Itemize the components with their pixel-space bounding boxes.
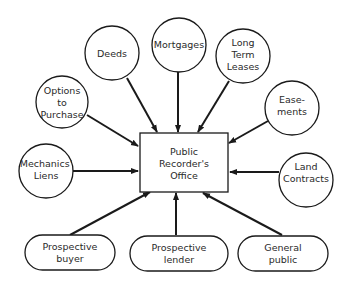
center-line-2: Recorder's	[159, 158, 209, 169]
easements-label-2: ments	[277, 106, 307, 117]
lender-label-1: Prospective	[152, 242, 207, 253]
public-label-2: public	[269, 254, 298, 265]
arrow-general-public	[203, 193, 282, 235]
buyer-label-2: buyer	[56, 253, 84, 264]
mechanics-liens-label-2: Liens	[34, 170, 59, 181]
arrow-deeds	[127, 78, 157, 132]
buyer-label-1: Prospective	[43, 241, 98, 252]
long-term-leases-label-2: Term	[230, 49, 254, 60]
options-label-3: Purchase	[40, 109, 83, 120]
deeds-label: Deeds	[97, 48, 127, 59]
public-label-1: General	[264, 242, 301, 253]
mechanics-liens-label-1: Mechanics'	[20, 158, 73, 169]
mortgages-label: Mortgages	[154, 39, 204, 50]
public-recorders-office-box: Public Recorder's Office	[140, 133, 228, 192]
options-label-2: to	[57, 97, 67, 108]
arrow-options	[87, 115, 138, 146]
land-contracts-label-2: Contracts	[283, 173, 329, 184]
long-term-leases-label-3: Leases	[227, 61, 260, 72]
center-line-1: Public	[170, 146, 198, 157]
arrow-prospective-buyer	[70, 192, 150, 235]
arrow-long-term-leases	[198, 81, 229, 132]
options-label-1: Options	[44, 85, 81, 96]
lender-label-2: lender	[164, 254, 194, 265]
arrow-easements	[229, 121, 268, 143]
easements-label-1: Ease-	[279, 94, 305, 105]
long-term-leases-label-1: Long	[232, 37, 255, 48]
recorder-diagram: Public Recorder's Office Deeds Mortgages…	[0, 0, 353, 285]
land-contracts-label-1: Land	[294, 161, 317, 172]
center-line-3: Office	[170, 170, 198, 181]
